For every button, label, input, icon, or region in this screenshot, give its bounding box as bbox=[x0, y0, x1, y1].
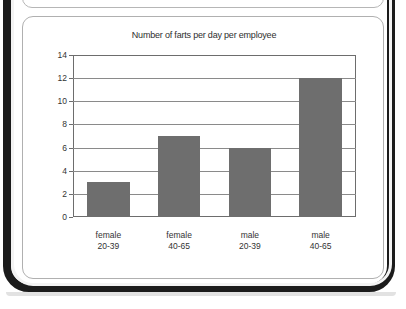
x-category-label-3: male40-65 bbox=[285, 230, 356, 253]
y-tick-label-0: 0 bbox=[62, 213, 67, 222]
y-tick-mark-4 bbox=[69, 171, 73, 172]
x-category-label-1: female40-65 bbox=[144, 230, 215, 253]
y-tick-mark-0 bbox=[69, 217, 73, 218]
panel-above-cutoff bbox=[22, 0, 384, 8]
y-tick-mark-14 bbox=[69, 55, 73, 56]
y-tick-label-10: 10 bbox=[58, 97, 67, 106]
plot-area: 02468101214 female20-39female40-65male20… bbox=[73, 55, 356, 217]
y-tick-label-2: 2 bbox=[62, 190, 67, 199]
y-tick-mark-8 bbox=[69, 124, 73, 125]
x-category-label-2: male20-39 bbox=[215, 230, 286, 253]
bar-male-40-65 bbox=[299, 78, 341, 217]
bar-female-40-65 bbox=[158, 136, 200, 217]
y-tick-label-14: 14 bbox=[58, 51, 67, 60]
scanned-page: Number of farts per day per employee 024… bbox=[0, 0, 406, 309]
bar-male-20-39 bbox=[229, 148, 271, 217]
y-tick-label-8: 8 bbox=[62, 120, 67, 129]
y-tick-label-12: 12 bbox=[58, 74, 67, 83]
y-tick-mark-12 bbox=[69, 78, 73, 79]
y-tick-mark-10 bbox=[69, 101, 73, 102]
y-tick-label-4: 4 bbox=[62, 166, 67, 175]
chart-panel: Number of farts per day per employee 024… bbox=[22, 16, 384, 279]
chart-title: Number of farts per day per employee bbox=[23, 30, 385, 40]
y-tick-label-6: 6 bbox=[62, 143, 67, 152]
y-tick-mark-6 bbox=[69, 148, 73, 149]
y-tick-mark-2 bbox=[69, 194, 73, 195]
bar-female-20-39 bbox=[87, 182, 129, 217]
page-edge-shadow bbox=[6, 292, 396, 296]
x-category-label-0: female20-39 bbox=[73, 230, 144, 253]
